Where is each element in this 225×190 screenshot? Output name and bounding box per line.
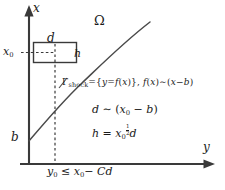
curve-start-b-label: b [11, 131, 19, 143]
x0-subscript: 0 [9, 51, 13, 59]
box-height-label: h [74, 48, 81, 59]
diagram-canvas [0, 0, 225, 190]
domain-omega-label: Ω [94, 14, 105, 27]
d-relation-formula: d ∼ (x0 − b) [92, 104, 158, 117]
shock-curve-formula: Γshock={y=f(x)}, f(x)∼(x−b) [62, 78, 193, 88]
h-relation-formula: h = x012d [92, 124, 136, 141]
shock-subscript: shock [68, 81, 88, 89]
y-axis-arrowhead [204, 159, 216, 168]
x0-tick-label: x0 [3, 46, 14, 59]
y-axis-label: y [203, 141, 210, 153]
box-width-label: d [47, 32, 55, 44]
shock-curve-diagram: x y Ω b x0 d h Γshock={y=f(x)}, f(x)∼(x−… [0, 0, 225, 190]
x-axis-label: x [33, 2, 40, 14]
constraint-formula: y0 ≤ x0− Cd [47, 166, 113, 179]
